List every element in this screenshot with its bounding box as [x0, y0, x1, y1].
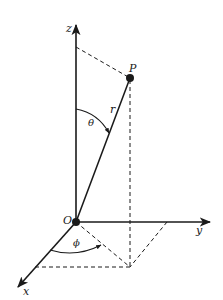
theta-label: θ	[88, 118, 94, 128]
y-axis-label: y	[196, 225, 202, 236]
z-axis-label: z	[66, 23, 72, 34]
radius-label: r	[110, 104, 115, 115]
origin-dot	[72, 218, 80, 226]
origin-label: O	[63, 215, 72, 226]
x-axis	[18, 222, 76, 287]
xy-projection-dashed	[76, 222, 130, 267]
radius-line	[76, 78, 130, 222]
z-projection-dashed	[76, 47, 130, 78]
spherical-coordinates-diagram	[0, 0, 223, 300]
phi-label: ϕ	[73, 238, 80, 248]
y-component-dashed	[130, 222, 167, 267]
point-p-label: P	[129, 63, 136, 74]
point-p-dot	[126, 74, 134, 82]
x-axis-label: x	[23, 286, 29, 297]
